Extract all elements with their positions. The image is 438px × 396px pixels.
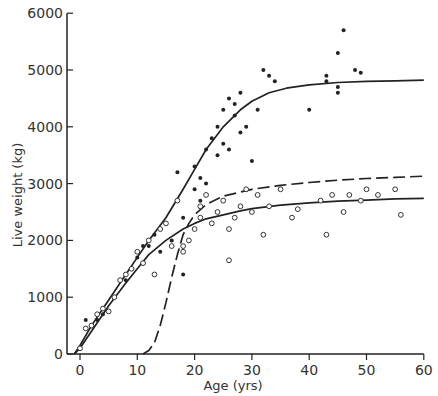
open-data-point <box>204 193 209 198</box>
filled-data-point <box>141 244 145 248</box>
open-data-point <box>358 198 363 203</box>
y-axis-title: Live weight (kg) <box>10 143 25 248</box>
filled-data-point <box>324 74 328 78</box>
open-data-point <box>393 187 398 192</box>
filled-data-point <box>238 91 242 95</box>
filled-data-point <box>175 170 179 174</box>
y-tick-label: 2000 <box>27 232 63 248</box>
open-data-point <box>164 221 169 226</box>
open-data-point <box>250 210 255 215</box>
filled-data-point <box>353 68 357 72</box>
filled-data-point <box>307 108 311 112</box>
open-data-point <box>186 238 191 243</box>
filled-data-point <box>359 71 363 75</box>
filled-data-point <box>147 244 151 248</box>
y-tick-label: 6000 <box>27 5 63 21</box>
open-data-point <box>238 204 243 209</box>
filled-data-point <box>227 96 231 100</box>
open-data-point <box>398 212 403 217</box>
x-tick-label: 60 <box>415 362 433 378</box>
open-data-point <box>227 227 232 232</box>
open-data-point <box>376 193 381 198</box>
filled-data-point <box>273 79 277 83</box>
filled-data-point <box>244 125 248 129</box>
filled-data-point <box>204 148 208 152</box>
x-tick-label: 40 <box>300 362 318 378</box>
open-data-point <box>146 238 151 243</box>
x-tick-label: 0 <box>76 362 85 378</box>
open-data-point <box>330 193 335 198</box>
filled-data-point <box>158 250 162 254</box>
open-data-point <box>209 221 214 226</box>
data-points <box>78 28 404 350</box>
x-tick-label: 50 <box>358 362 376 378</box>
open-data-point <box>324 232 329 237</box>
filled-data-point <box>233 102 237 106</box>
open-data-point <box>295 207 300 212</box>
growth-chart: 0100020003000400050006000 0102030405060 … <box>0 0 438 396</box>
open-data-point <box>95 312 100 317</box>
filled-data-point <box>181 272 185 276</box>
filled-data-point <box>84 318 88 322</box>
y-tick-label: 4000 <box>27 119 63 135</box>
y-tick-label: 5000 <box>27 62 63 78</box>
filled-data-point <box>256 108 260 112</box>
open-data-point <box>158 227 163 232</box>
filled-data-point <box>181 216 185 220</box>
open-data-point <box>101 306 106 311</box>
open-data-point <box>78 346 83 351</box>
open-data-point <box>318 198 323 203</box>
filled-data-point <box>152 233 156 237</box>
open-data-point <box>364 187 369 192</box>
x-axis: 0102030405060 <box>67 354 433 378</box>
filled-data-point <box>261 68 265 72</box>
filled-data-point <box>101 312 105 316</box>
filled-data-point <box>267 74 271 78</box>
filled-data-point <box>233 113 237 117</box>
filled-data-point <box>95 318 99 322</box>
y-tick-label: 0 <box>54 346 63 362</box>
open-data-point <box>118 278 123 283</box>
filled-data-point <box>216 125 220 129</box>
filled-data-point <box>124 278 128 282</box>
dashed-fit-curve <box>143 176 424 354</box>
open-data-point <box>215 210 220 215</box>
open-data-point <box>232 215 237 220</box>
open-data-point <box>181 249 186 254</box>
open-data-point <box>227 258 232 263</box>
open-data-point <box>123 272 128 277</box>
open-data-point <box>129 266 134 271</box>
open-data-point <box>83 326 88 331</box>
filled-data-point <box>336 85 340 89</box>
open-data-point <box>135 249 140 254</box>
filled-data-point <box>198 176 202 180</box>
open-data-point <box>192 227 197 232</box>
open-data-point <box>89 323 94 328</box>
open-data-point <box>341 210 346 215</box>
open-data-point <box>198 215 203 220</box>
open-data-point <box>221 198 226 203</box>
x-tick-label: 30 <box>243 362 261 378</box>
x-tick-label: 20 <box>186 362 204 378</box>
filled-data-point <box>221 142 225 146</box>
open-data-point <box>169 244 174 249</box>
filled-data-point <box>342 28 346 32</box>
filled-data-point <box>193 187 197 191</box>
y-tick-label: 3000 <box>27 176 63 192</box>
filled-data-point <box>193 165 197 169</box>
open-data-point <box>267 204 272 209</box>
filled-data-point <box>216 153 220 157</box>
open-data-point <box>347 193 352 198</box>
filled-data-point <box>210 136 214 140</box>
filled-data-point <box>198 199 202 203</box>
open-data-point <box>261 232 266 237</box>
x-axis-title: Age (yrs) <box>203 378 262 393</box>
x-tick-label: 10 <box>128 362 146 378</box>
solid-fit-curve <box>74 80 424 354</box>
filled-data-point <box>336 91 340 95</box>
open-data-point <box>181 244 186 249</box>
open-data-point <box>175 198 180 203</box>
open-data-point <box>244 187 249 192</box>
filled-data-point <box>170 238 174 242</box>
y-tick-label: 1000 <box>27 289 63 305</box>
